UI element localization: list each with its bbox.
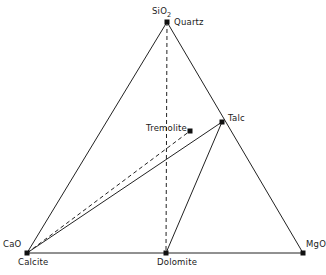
- label-calcite: Calcite: [18, 258, 49, 267]
- marker-cao[interactable]: [25, 251, 30, 256]
- tieline-cao-talc: [27, 122, 222, 253]
- tieline-talc-dolomite: [166, 122, 222, 253]
- tieline-sio2-dolomite: [166, 22, 167, 253]
- label-sio2-formula: SiO: [152, 6, 167, 16]
- label-talc: Talc: [228, 114, 245, 123]
- edge-sio2-cao: [27, 22, 167, 253]
- label-cao: CaO: [3, 240, 21, 249]
- marker-talc[interactable]: [220, 120, 225, 125]
- diagram-canvas: [0, 0, 326, 275]
- tie-lines-solid: [27, 122, 222, 253]
- tie-lines-dashed: [27, 22, 190, 253]
- marker-dolomite[interactable]: [164, 251, 169, 256]
- edge-sio2-mgo: [167, 22, 303, 253]
- marker-sio2[interactable]: [165, 20, 170, 25]
- ternary-phase-diagram: SiO2 Quartz CaO Calcite MgO Dolomite Tal…: [0, 0, 326, 275]
- marker-tremolite[interactable]: [188, 129, 193, 134]
- label-sio2: SiO2: [152, 7, 171, 18]
- label-mgo: MgO: [306, 240, 326, 249]
- marker-mgo[interactable]: [301, 251, 306, 256]
- label-sio2-subscript: 2: [167, 11, 171, 19]
- tieline-cao-tremolite: [27, 131, 190, 253]
- label-quartz: Quartz: [174, 18, 204, 27]
- phase-markers: [25, 20, 306, 256]
- label-dolomite: Dolomite: [157, 258, 197, 267]
- triangle-edges: [27, 22, 303, 253]
- label-tremolite: Tremolite: [146, 124, 187, 133]
